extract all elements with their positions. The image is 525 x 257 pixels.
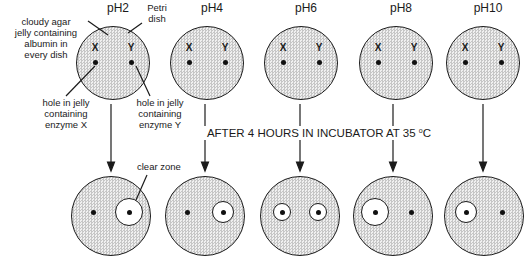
enzyme-x-hole [185,210,190,215]
petri-dish-ph4-before: XY [170,26,244,100]
annotation-line: jelly containing [0,27,92,38]
enzyme-ph-experiment-diagram: cloudy agar jelly containing albumin in … [0,0,525,257]
petri-dish-ph10-before: XY [446,26,520,100]
enzyme-y-hole [221,210,226,215]
enzyme-y-hole-annotation: hole in jelly containing enzyme Y [124,97,196,130]
petri-dish-ph8-before: XY [359,26,433,100]
annotation-line: albumin in [0,38,92,49]
enzyme-x-hole-annotation: hole in jelly containing enzyme X [30,97,102,130]
temperature-unit: C [423,127,431,139]
enzyme-y-hole [127,210,132,215]
ph-label-ph6: pH6 [282,1,330,15]
annotation-line: every dish [0,49,92,60]
enzyme-x-hole [281,60,286,65]
annotation-line: dish [138,13,176,24]
annotation-line: enzyme Y [124,119,196,130]
enzyme-x-letter: X [179,42,199,53]
annotation-line: containing [124,108,196,119]
enzyme-y-letter: Y [121,42,141,53]
enzyme-y-letter: Y [404,42,424,53]
petri-dish-ph10-after [444,176,524,256]
enzyme-y-letter: Y [215,42,235,53]
petri-dish-ph4-after [165,176,245,256]
enzyme-x-hole [376,60,381,65]
petri-dish-ph6-before: XY [264,26,338,100]
enzyme-y-hole [317,60,322,65]
annotation-line: hole in jelly [124,97,196,108]
enzyme-x-hole [187,60,192,65]
petri-dish-ph6-after [260,176,340,256]
enzyme-x-hole [93,60,98,65]
enzyme-y-hole [409,210,414,215]
clear-zone-annotation: clear zone [137,161,181,172]
petri-dish-ph2-after [71,176,151,256]
incubation-arrow-ph10 [480,104,487,171]
enzyme-y-hole [129,60,134,65]
annotation-line: containing [30,108,102,119]
petri-dish-annotation: Petri dish [138,2,176,24]
annotation-line: enzyme X [30,119,102,130]
incubation-caption: AFTER 4 HOURS IN INCUBATOR AT 35 oC [189,126,449,140]
enzyme-x-hole [373,210,378,215]
annotation-line: hole in jelly [30,97,102,108]
enzyme-x-hole [280,210,285,215]
enzyme-x-letter: X [368,42,388,53]
petri-dish-ph8-after [353,176,433,256]
enzyme-y-letter: Y [491,42,511,53]
ph-label-ph10: pH10 [464,1,512,15]
cloudy-agar-annotation: cloudy agar jelly containing albumin in … [0,16,92,60]
annotation-line: Petri [138,2,176,13]
enzyme-x-hole [463,60,468,65]
enzyme-y-hole [499,60,504,65]
enzyme-x-hole [91,210,96,215]
ph-label-ph8: pH8 [377,1,425,15]
enzyme-y-hole [316,210,321,215]
enzyme-y-hole [223,60,228,65]
ph-label-ph2: pH2 [94,1,142,15]
ph-label-ph4: pH4 [188,1,236,15]
enzyme-y-hole [500,210,505,215]
enzyme-y-hole [412,60,417,65]
annotation-line: cloudy agar [0,16,92,27]
enzyme-x-hole [464,210,469,215]
enzyme-x-letter: X [273,42,293,53]
incubation-arrow-ph2 [108,104,115,171]
incubation-caption-text: AFTER 4 HOURS IN INCUBATOR AT 35 [207,127,419,139]
enzyme-x-letter: X [455,42,475,53]
enzyme-y-letter: Y [309,42,329,53]
